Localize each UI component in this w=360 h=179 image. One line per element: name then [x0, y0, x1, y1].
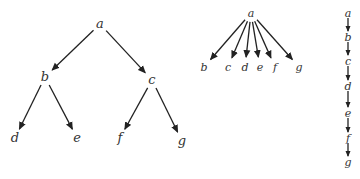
star-tree-node-b: b: [200, 61, 207, 74]
edge-arrow-c-g: [156, 88, 178, 132]
star-tree-node-d: d: [241, 61, 248, 74]
chain-node-a: a: [345, 7, 352, 20]
edge-arrow-b-d: [19, 85, 41, 129]
edge-arrow-a-b: [52, 30, 93, 70]
chain-node-c: c: [345, 55, 351, 68]
chain-node-d: d: [344, 80, 351, 93]
trees-diagram: abcdefgabcdefgabcdefg: [0, 0, 360, 179]
binary-tree-node-d: d: [11, 130, 19, 145]
binary-tree-node-g: g: [178, 133, 186, 148]
star-tree-node-g: g: [295, 61, 302, 74]
chain-node-f: f: [345, 132, 352, 145]
star-tree-node-e: e: [257, 61, 264, 74]
binary-tree-node-f: f: [117, 130, 125, 145]
star-tree-node-f: f: [272, 61, 279, 74]
chain-node-b: b: [344, 31, 351, 44]
star-tree-node-c: c: [225, 61, 231, 74]
chain-node-g: g: [344, 156, 351, 169]
star-tree-node-a: a: [248, 7, 255, 20]
binary-tree-node-b: b: [41, 69, 49, 84]
binary-tree-node-e: e: [73, 130, 81, 145]
binary-tree-node-c: c: [148, 72, 156, 87]
edge-arrow-b-e: [49, 85, 72, 129]
chain-node-e: e: [345, 107, 352, 120]
edge-arrow-a-c: [106, 31, 145, 73]
binary-tree-node-a: a: [96, 16, 104, 31]
edge-arrow-a-d: [246, 22, 250, 57]
star-tree: [211, 20, 293, 60]
edge-arrow-c-f: [125, 88, 148, 129]
